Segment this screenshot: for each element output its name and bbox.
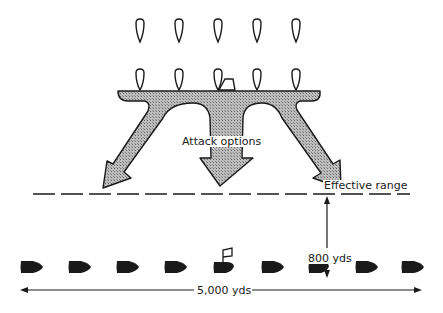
attacker-ship-icon bbox=[253, 69, 261, 90]
attack-options-label: Attack options bbox=[180, 136, 263, 147]
defender-ship-icon bbox=[262, 261, 285, 273]
distance-800-label: 800 yds bbox=[307, 253, 353, 264]
attacker-ship-icon bbox=[136, 69, 144, 90]
attacker-ship-icon bbox=[175, 19, 183, 42]
attacker-ship-icon bbox=[214, 19, 222, 42]
defender-ship-icon bbox=[21, 261, 44, 273]
attacker-ship-icon bbox=[136, 19, 144, 42]
defender-row bbox=[21, 248, 425, 273]
defender-ship-icon bbox=[117, 261, 140, 273]
attacker-ship-icon bbox=[253, 19, 261, 42]
attacker-ship-icon bbox=[292, 19, 300, 42]
attacker-row-front bbox=[136, 69, 300, 90]
defender-ship-icon bbox=[356, 261, 379, 273]
attacker-ship-icon bbox=[292, 69, 300, 90]
diagram-canvas bbox=[0, 0, 443, 313]
defender-flag-icon bbox=[223, 248, 232, 262]
defender-ship-icon bbox=[69, 261, 92, 273]
defender-ship-icon bbox=[402, 261, 425, 273]
attacker-ship-icon bbox=[175, 69, 183, 90]
distance-5000-label: 5,000 yds bbox=[196, 285, 252, 296]
defender-ship-icon bbox=[214, 262, 235, 273]
defender-ship-icon bbox=[165, 261, 188, 273]
attacker-row-back bbox=[136, 19, 300, 42]
effective-range-label: Effective range bbox=[323, 180, 408, 191]
